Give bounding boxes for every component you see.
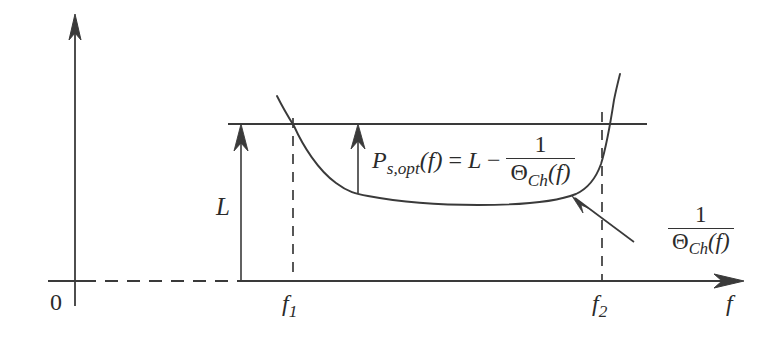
equation-fraction-denominator: ΘCh(f) <box>506 159 574 190</box>
equation-denominator-subscript: Ch <box>528 171 548 190</box>
equation-lhs-subscript: s,opt <box>387 159 420 178</box>
curve-label-fraction: 1 ΘCh(f) <box>668 203 734 258</box>
curve-label-denominator-subscript: Ch <box>689 239 708 258</box>
tick-label-f1-subscript: 1 <box>289 302 298 321</box>
tick-label-f1-base: f <box>282 290 289 316</box>
origin-label: 0 <box>50 290 62 314</box>
equation-denominator-arg: (f) <box>548 159 571 185</box>
equation-relation: = <box>448 147 462 173</box>
equation-term1: L <box>468 147 481 173</box>
equation-lhs-base: P <box>372 147 387 173</box>
equation-fraction-numerator: 1 <box>506 132 574 159</box>
tick-label-f2-subscript: 2 <box>599 302 608 321</box>
equation-denominator-theta: Θ <box>510 159 527 185</box>
equation-lhs-arg: (f) <box>420 147 443 173</box>
tick-label-f1: f1 <box>282 291 297 320</box>
ps-opt-equation: Ps,opt(f) = L − 1 ΘCh(f) <box>372 134 575 192</box>
equation-operator: − <box>487 147 501 173</box>
x-axis-label: f <box>726 291 733 315</box>
water-level-label: L <box>216 194 230 219</box>
curve-label: 1 ΘCh(f) <box>668 205 734 260</box>
figure-canvas: 0 f f1 f2 L Ps,opt(f) = L − 1 ΘCh(f) 1 Θ… <box>0 0 765 338</box>
curve-label-denominator: ΘCh(f) <box>668 229 734 258</box>
curve-label-denominator-theta: Θ <box>672 229 689 254</box>
curve-label-numerator: 1 <box>668 203 734 229</box>
equation-fraction: 1 ΘCh(f) <box>506 132 574 190</box>
curve-label-leader-arrowhead <box>572 196 588 213</box>
tick-label-f2-base: f <box>592 290 599 316</box>
curve-label-denominator-arg: (f) <box>708 229 730 254</box>
tick-label-f2: f2 <box>592 291 607 320</box>
